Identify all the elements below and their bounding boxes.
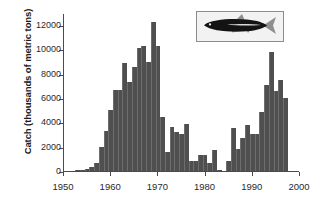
x-tick-mark	[299, 172, 300, 176]
x-tick-mark	[63, 172, 64, 176]
y-tick-label: 6000	[41, 93, 61, 103]
x-tick-mark	[110, 172, 111, 176]
bar	[283, 98, 288, 171]
x-tick-label: 1950	[52, 181, 73, 192]
x-tick-mark	[205, 172, 206, 176]
fish-illustration-icon	[196, 11, 284, 42]
y-tick-label: 8000	[41, 69, 61, 79]
y-tick-label: 10000	[36, 44, 61, 54]
x-tick-mark	[252, 172, 253, 176]
bar	[212, 150, 217, 171]
x-tick-mark	[157, 172, 158, 176]
x-tick-label: 1960	[100, 181, 121, 192]
x-tick-label: 1970	[147, 181, 168, 192]
y-tick-label: 2000	[41, 142, 61, 152]
x-tick-label: 1980	[194, 181, 215, 192]
x-tick-label: 1990	[241, 181, 262, 192]
x-tick-label: 2000	[288, 181, 309, 192]
chart-figure: Catch (thousands of metric tons) 0200040…	[0, 0, 316, 205]
y-tick-label: 12000	[36, 20, 61, 30]
y-axis-title: Catch (thousands of metric tons)	[22, 0, 33, 167]
y-tick-label: 4000	[41, 117, 61, 127]
bar	[217, 170, 222, 171]
fish-svg	[197, 12, 281, 39]
y-tick-label: 0	[56, 166, 61, 176]
